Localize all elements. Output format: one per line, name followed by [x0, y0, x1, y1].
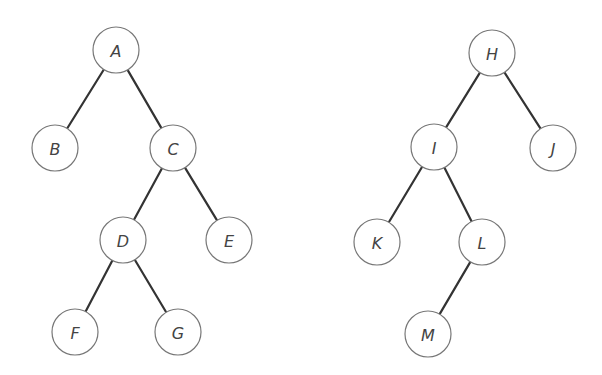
tree-node-m: M [405, 311, 451, 357]
node-label: C [167, 140, 179, 159]
tree-node-l: L [459, 219, 505, 265]
edge-i-l [444, 168, 471, 222]
nodes-layer: ABCDEFGHIJKLM [32, 27, 576, 357]
tree-node-c: C [150, 125, 196, 171]
node-label: H [486, 45, 498, 64]
edge-d-f [86, 260, 113, 311]
node-label: B [50, 140, 61, 159]
tree-node-g: G [155, 309, 201, 355]
edge-l-m [440, 262, 471, 314]
tree-node-f: F [52, 309, 98, 355]
node-label: A [110, 42, 122, 61]
edge-c-e [185, 168, 217, 221]
node-label: M [421, 326, 435, 345]
node-label: G [172, 324, 184, 343]
edge-a-b [67, 70, 104, 129]
tree-node-a: A [93, 27, 139, 73]
edges-layer [67, 70, 540, 315]
node-label: L [478, 234, 487, 253]
edge-c-d [134, 168, 162, 220]
tree-node-d: D [100, 217, 146, 263]
edge-a-c [128, 70, 162, 128]
tree-diagram: ABCDEFGHIJKLM [0, 0, 602, 375]
edge-h-i [446, 73, 480, 128]
tree-node-i: I [411, 124, 457, 170]
tree-node-b: B [32, 125, 78, 171]
tree-node-k: K [354, 219, 400, 265]
node-label: I [432, 139, 437, 158]
node-label: K [372, 234, 384, 253]
tree-node-h: H [469, 30, 515, 76]
node-label: E [224, 232, 235, 251]
edge-h-j [504, 72, 540, 128]
edge-d-g [135, 260, 166, 313]
tree-node-j: J [530, 125, 576, 171]
node-label: D [117, 232, 129, 251]
tree-node-e: E [206, 217, 252, 263]
node-label: F [70, 324, 80, 343]
edge-i-k [389, 167, 422, 223]
